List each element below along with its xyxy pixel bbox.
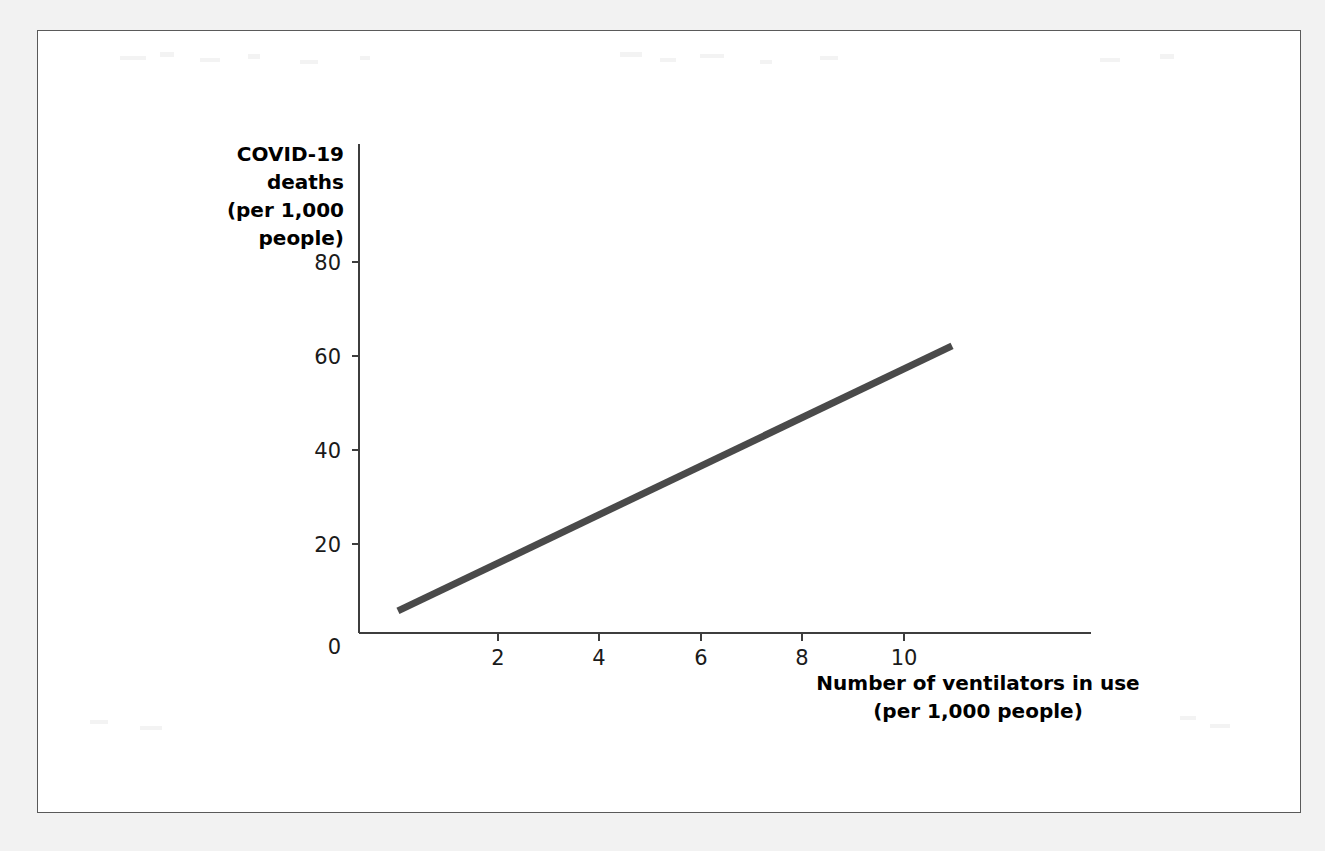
y-axis-title-line-4: people)	[259, 226, 345, 250]
data-line-covid-deaths	[398, 346, 952, 611]
y-axis-title-line-2: deaths	[267, 170, 344, 194]
x-axis-title-line-1: Number of ventilators in use	[816, 671, 1139, 695]
line-chart: 80 60 40 20 0 2 4 6 8 10 COVID-19	[38, 31, 1302, 814]
x-tick-marks	[498, 633, 904, 641]
x-tick-label-4: 4	[592, 646, 605, 670]
x-tick-label-8: 8	[795, 646, 808, 670]
figure-frame: 80 60 40 20 0 2 4 6 8 10 COVID-19	[37, 30, 1301, 813]
y-axis-title-line-1: COVID-19	[237, 142, 344, 166]
x-axis-title-line-2: (per 1,000 people)	[873, 699, 1083, 723]
y-tick-label-0: 0	[328, 635, 341, 659]
x-axis-title: Number of ventilators in use (per 1,000 …	[816, 671, 1139, 723]
y-axis-title-line-3: (per 1,000	[227, 198, 344, 222]
y-tick-label-60: 60	[314, 345, 341, 369]
y-tick-label-80: 80	[314, 251, 341, 275]
y-axis-title: COVID-19 deaths (per 1,000 people)	[227, 142, 344, 250]
y-tick-label-40: 40	[314, 439, 341, 463]
y-tick-label-20: 20	[314, 533, 341, 557]
x-tick-label-6: 6	[694, 646, 707, 670]
x-tick-label-10: 10	[891, 646, 918, 670]
figure-page: 80 60 40 20 0 2 4 6 8 10 COVID-19	[0, 0, 1325, 851]
x-tick-label-2: 2	[491, 646, 504, 670]
